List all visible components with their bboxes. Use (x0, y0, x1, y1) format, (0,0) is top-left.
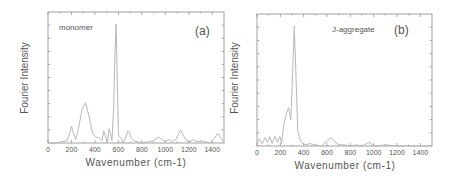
spectrum-line (48, 24, 224, 143)
x-tick-label: 800 (136, 146, 148, 153)
spectrum-line (257, 26, 432, 146)
x-axis-label: Wavenumber (cm-1) (86, 157, 187, 168)
x-tick-label: 1400 (413, 149, 429, 156)
x-tick-label: 1400 (204, 146, 220, 153)
x-tick-label: 0 (255, 149, 259, 156)
panel-label: (a) (195, 24, 210, 38)
y-axis-label: Fourier Intensity (229, 42, 240, 114)
panel-label: (b) (394, 23, 409, 37)
x-axis-label: Wavenumber (cm-1) (295, 160, 396, 171)
x-tick-label: 1200 (181, 146, 197, 153)
series-annotation: J-aggregate (332, 25, 375, 34)
series-annotation: monomer (59, 23, 93, 32)
panel-a-monomer: 0200400600800100012001400 Fourier Intens… (19, 12, 224, 168)
x-tick-label: 800 (344, 149, 356, 156)
x-tick-label: 400 (89, 146, 101, 153)
x-tick-label: 400 (298, 149, 310, 156)
x-tick-label: 1000 (366, 149, 382, 156)
x-tick-label: 600 (321, 149, 333, 156)
panel-b-j-aggregate: 0200400600800100012001400 Fourier Intens… (229, 14, 432, 171)
x-tick-label: 600 (113, 146, 125, 153)
x-tick-label: 0 (46, 146, 50, 153)
figure: 0200400600800100012001400 Fourier Intens… (0, 0, 450, 184)
x-tick-label: 200 (274, 149, 286, 156)
x-tick-label: 1200 (389, 149, 405, 156)
y-axis-label: Fourier Intensity (19, 42, 30, 114)
x-tick-label: 1000 (158, 146, 174, 153)
x-tick-label: 200 (66, 146, 78, 153)
